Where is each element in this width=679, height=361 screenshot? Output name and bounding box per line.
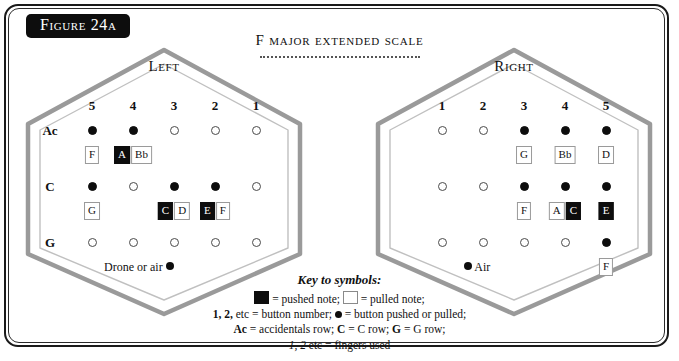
note-box-f-pulled[interactable]: F (85, 146, 99, 164)
key-c-text: = C row; (348, 323, 389, 335)
key-pulled-text: = pulled note; (361, 293, 425, 305)
note-box-group: CD (158, 202, 190, 220)
left-air-text: Drone or air (104, 260, 163, 274)
button-dot[interactable] (561, 238, 570, 247)
button-dot[interactable] (211, 126, 220, 135)
key-pushed-text: = pushed note; (272, 293, 340, 305)
note-box-bb-pulled[interactable]: Bb (131, 146, 152, 164)
button-dot[interactable] (561, 182, 570, 191)
key-fingers-text: etc = fingers used (309, 339, 391, 351)
note-box-f-pulled[interactable]: F (216, 202, 230, 220)
key-title: Key to symbols: (175, 272, 505, 288)
row-label-Ac: Ac (35, 123, 65, 139)
column-number-3: 3 (513, 98, 535, 114)
pulled-note-swatch-icon (343, 291, 358, 304)
column-number-2: 2 (472, 98, 494, 114)
button-dot[interactable] (88, 126, 97, 135)
note-box-f-pulled[interactable]: F (599, 258, 613, 276)
air-dot-icon (464, 262, 472, 270)
button-dot-icon (335, 311, 342, 318)
key-button-number-text: etc = button number; (236, 308, 332, 320)
note-box-group: G (84, 202, 100, 220)
row-label-C: C (35, 179, 65, 195)
key-ac-bold: Ac (233, 323, 246, 335)
note-box-a-pulled[interactable]: A (549, 202, 565, 220)
note-box-group: ABb (114, 146, 152, 164)
button-dot[interactable] (438, 238, 447, 247)
note-box-g-pulled[interactable]: G (84, 202, 100, 220)
key-line-4: 1, 2 etc = fingers used (175, 338, 505, 353)
button-dot[interactable] (129, 126, 138, 135)
note-box-c-pushed[interactable]: C (158, 202, 173, 220)
button-dot[interactable] (170, 182, 179, 191)
note-box-f-pulled[interactable]: F (517, 202, 531, 220)
note-box-group: EF (200, 202, 230, 220)
note-box-group: F (517, 202, 531, 220)
key-line-2: 1, 2, etc = button number; = button push… (175, 307, 505, 322)
column-number-4: 4 (554, 98, 576, 114)
pushed-note-swatch-icon (254, 291, 269, 304)
button-dot[interactable] (479, 126, 488, 135)
key-button-pushed-pulled-text: = button pushed or pulled; (345, 308, 466, 320)
button-dot[interactable] (602, 182, 611, 191)
column-number-4: 4 (122, 98, 144, 114)
button-dot[interactable] (602, 238, 611, 247)
column-number-1: 1 (245, 98, 267, 114)
button-dot[interactable] (88, 238, 97, 247)
button-dot[interactable] (211, 182, 220, 191)
figure-page: Figure 24a F major extended scale Left 5… (0, 0, 679, 361)
key-g-bold: G (392, 323, 401, 335)
button-dot[interactable] (252, 238, 261, 247)
column-number-1: 1 (431, 98, 453, 114)
button-dot[interactable] (602, 126, 611, 135)
key-ac-text: = accidentals row; (250, 323, 334, 335)
note-box-e-pushed[interactable]: E (599, 202, 614, 220)
key-fingers-italic: 1, 2 (289, 339, 306, 351)
note-box-group: Bb (555, 146, 576, 164)
air-dot-icon (166, 262, 174, 270)
note-box-e-pushed[interactable]: E (200, 202, 215, 220)
button-dot[interactable] (520, 126, 529, 135)
button-dot[interactable] (170, 126, 179, 135)
button-dot[interactable] (438, 126, 447, 135)
key-g-text: = G row; (404, 323, 446, 335)
button-dot[interactable] (438, 182, 447, 191)
left-air-caption: Drone or air (104, 260, 174, 275)
key-to-symbols: Key to symbols: = pushed note; = pulled … (175, 272, 505, 353)
note-box-group: AC (549, 202, 581, 220)
note-box-group: D (598, 146, 614, 164)
column-number-5: 5 (595, 98, 617, 114)
key-line-1: = pushed note; = pulled note; (175, 291, 505, 307)
button-dot[interactable] (88, 182, 97, 191)
button-dot[interactable] (252, 126, 261, 135)
note-box-group: E (599, 202, 614, 220)
row-label-G: G (35, 235, 65, 251)
button-dot[interactable] (520, 182, 529, 191)
button-dot[interactable] (170, 238, 179, 247)
button-dot[interactable] (479, 182, 488, 191)
button-dot[interactable] (561, 126, 570, 135)
button-dot[interactable] (211, 238, 220, 247)
note-box-d-pulled[interactable]: D (598, 146, 614, 164)
note-box-group: F (599, 258, 613, 276)
note-box-a-pushed[interactable]: A (114, 146, 130, 164)
key-line-3: Ac = accidentals row; C = C row; G = G r… (175, 322, 505, 337)
note-box-c-pushed[interactable]: C (566, 202, 581, 220)
button-dot[interactable] (252, 182, 261, 191)
column-number-3: 3 (163, 98, 185, 114)
note-box-bb-pulled[interactable]: Bb (555, 146, 576, 164)
button-dot[interactable] (129, 182, 138, 191)
note-box-g-pulled[interactable]: G (516, 146, 532, 164)
key-button-number-bold: 1, 2, (213, 308, 233, 320)
key-c-bold: C (337, 323, 345, 335)
button-dot[interactable] (520, 238, 529, 247)
note-box-group: F (85, 146, 99, 164)
button-dot[interactable] (129, 238, 138, 247)
column-number-2: 2 (204, 98, 226, 114)
column-number-5: 5 (81, 98, 103, 114)
button-dot[interactable] (479, 238, 488, 247)
note-box-group: G (516, 146, 532, 164)
note-box-d-pulled[interactable]: D (174, 202, 190, 220)
